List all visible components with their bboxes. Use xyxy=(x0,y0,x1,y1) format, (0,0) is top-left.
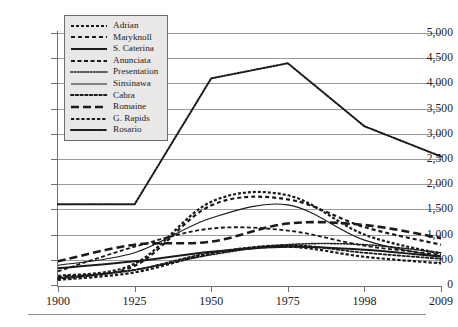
legend-item-presentation[interactable]: Presentation xyxy=(70,66,162,78)
legend-item-sinsinawa[interactable]: Sinsinawa xyxy=(70,78,162,90)
legend-item-s-caterina[interactable]: S. Caterina xyxy=(70,43,162,55)
footer-rule xyxy=(28,314,426,315)
legend-item-label: G. Rapids xyxy=(113,114,150,124)
legend-swatch-icon xyxy=(70,32,108,42)
legend-item-label: S. Caterina xyxy=(113,44,154,54)
legend-item-label: Cabra xyxy=(113,91,135,101)
legend-swatch-icon xyxy=(70,79,108,89)
legend-swatch-icon xyxy=(70,114,108,124)
legend-swatch-icon xyxy=(70,21,108,31)
legend-item-label: Presentation xyxy=(113,67,158,77)
legend-item-rosario[interactable]: Rosario xyxy=(70,124,162,136)
series-line xyxy=(58,197,441,277)
series-line xyxy=(58,204,441,265)
legend-item-anunciata[interactable]: Anunciata xyxy=(70,55,162,67)
legend-item-adrian[interactable]: Adrian xyxy=(70,20,162,32)
legend-swatch-icon xyxy=(70,56,108,66)
legend-swatch-icon xyxy=(70,90,108,100)
legend-item-label: Romaine xyxy=(113,102,146,112)
legend-item-label: Maryknoll xyxy=(113,33,152,43)
legend-item-maryknoll[interactable]: Maryknoll xyxy=(70,32,162,44)
legend-item-romaine[interactable]: Romaine xyxy=(70,101,162,113)
legend-item-cabra[interactable]: Cabra xyxy=(70,90,162,102)
legend-item-label: Adrian xyxy=(113,21,139,31)
legend-swatch-icon xyxy=(70,67,108,77)
legend-swatch-icon xyxy=(70,44,108,54)
legend-item-label: Anunciata xyxy=(113,56,151,66)
legend: AdrianMaryknollS. CaterinaAnunciataPrese… xyxy=(64,15,168,141)
legend-swatch-icon xyxy=(70,125,108,135)
legend-swatch-icon xyxy=(70,102,108,112)
legend-item-label: Rosario xyxy=(113,125,142,135)
legend-item-g-rapids[interactable]: G. Rapids xyxy=(70,113,162,125)
legend-item-label: Sinsinawa xyxy=(113,79,151,89)
